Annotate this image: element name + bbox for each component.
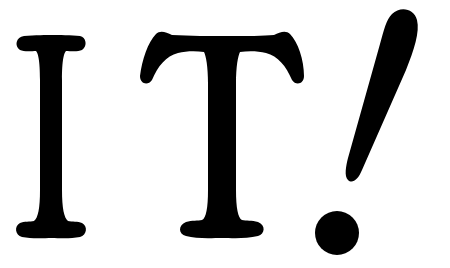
exclamation-stroke — [346, 9, 418, 181]
letter-t — [140, 32, 304, 238]
letter-i — [16, 35, 86, 238]
canvas: IT! — [0, 0, 450, 268]
headline-graphic — [0, 0, 450, 268]
exclamation-dot — [315, 211, 359, 255]
